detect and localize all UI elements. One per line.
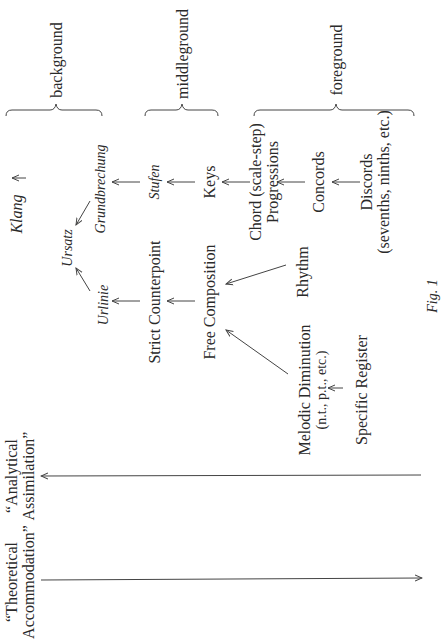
node-chord-progressions: Chord (scale-step) Progressions bbox=[247, 123, 281, 241]
theoretical-accommodation-arrow bbox=[41, 578, 422, 580]
axis-label-analytical-assimilation: “Analytical Assimilation” bbox=[3, 432, 37, 521]
node-stufen: Stufen bbox=[146, 165, 163, 200]
node-ursatz: Ursatz bbox=[59, 229, 76, 266]
node-strict-counterpoint: Strict Counterpoint bbox=[146, 240, 163, 363]
chord-progressions-line2: Progressions bbox=[264, 123, 281, 241]
node-rhythm: Rhythm bbox=[294, 246, 311, 298]
level-label-background: background bbox=[48, 22, 65, 98]
node-free-composition: Free Composition bbox=[201, 244, 218, 359]
arrow-urlinie-to-ursatz bbox=[76, 268, 90, 291]
axis-label-theoretical-accommodation: “Theoretical Accommodation” bbox=[3, 525, 37, 639]
analytical-line2: Assimilation” bbox=[20, 432, 37, 521]
level-label-foreground: foreground bbox=[328, 24, 345, 95]
discords-line1: Discords bbox=[358, 110, 375, 254]
chord-progressions-line1: Chord (scale-step) bbox=[247, 123, 264, 241]
brace-middleground bbox=[145, 104, 218, 116]
node-melodic-diminution: Melodic Diminution (n.t., p.t., etc.) bbox=[296, 324, 330, 455]
node-specific-register: Specific Register bbox=[353, 335, 370, 445]
brace-background bbox=[6, 104, 102, 116]
melodic-diminution-line2: (n.t., p.t., etc.) bbox=[313, 324, 330, 455]
figure-caption: Fig. 1 bbox=[424, 279, 441, 312]
analytical-assimilation-arrow bbox=[41, 475, 421, 476]
node-grundbrechung: Grundbrechung bbox=[92, 145, 109, 234]
node-discords: Discords (sevenths, ninths, etc.) bbox=[358, 110, 392, 254]
analytical-line1: “Analytical bbox=[3, 432, 20, 521]
theoretical-line1: “Theoretical bbox=[3, 525, 20, 639]
discords-line2: (sevenths, ninths, etc.) bbox=[375, 110, 392, 254]
arrow-rhythm-to-free-composition bbox=[226, 265, 286, 284]
node-concords: Concords bbox=[310, 151, 327, 212]
node-keys: Keys bbox=[201, 166, 218, 199]
node-urlinie: Urlinie bbox=[95, 285, 112, 325]
melodic-diminution-line1: Melodic Diminution bbox=[296, 324, 313, 455]
arrow-diminution-to-free-composition bbox=[226, 330, 288, 374]
theoretical-line2: Accommodation” bbox=[20, 525, 37, 639]
arrow-grundbrechung-to-ursatz bbox=[76, 201, 90, 225]
node-klang: Klang bbox=[8, 194, 25, 233]
level-label-middleground: middleground bbox=[174, 9, 191, 99]
